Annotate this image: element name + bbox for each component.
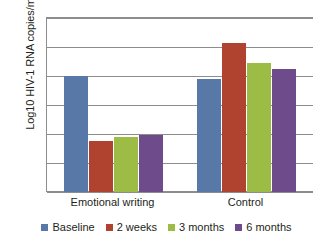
- legend-item-6-months[interactable]: 6 months: [235, 221, 291, 233]
- bar-6-months-emotional-writing: [139, 135, 163, 192]
- legend-label: Baseline: [52, 221, 94, 233]
- plot-area: 2.933.13.23.33.43.5: [46, 17, 313, 192]
- legend-label: 2 weeks: [117, 221, 157, 233]
- bar-baseline-control: [197, 79, 221, 192]
- bar-2-weeks-emotional-writing: [89, 141, 113, 192]
- legend-swatch-icon: [235, 224, 242, 231]
- legend-swatch-icon: [41, 224, 48, 231]
- legend-swatch-icon: [168, 224, 175, 231]
- bar-chart: Log10 HIV-1 RNA copies/m 2.933.13.23.33.…: [0, 0, 333, 241]
- y-axis-title: Log10 HIV-1 RNA copies/m: [24, 0, 36, 154]
- x-axis-category-label: Control: [228, 196, 263, 208]
- legend-label: 3 months: [179, 221, 224, 233]
- bar-3-months-control: [247, 63, 271, 192]
- plot-inner: 2.933.13.23.33.43.5: [47, 18, 313, 192]
- gridline: [47, 47, 313, 48]
- legend-item-3-months[interactable]: 3 months: [168, 221, 224, 233]
- legend-label: 6 months: [246, 221, 291, 233]
- bar-2-weeks-control: [222, 43, 246, 192]
- chart-legend: Baseline2 weeks3 months6 months: [0, 221, 333, 233]
- bar-6-months-control: [272, 69, 296, 192]
- x-axis-category-label: Emotional writing: [71, 196, 155, 208]
- legend-item-baseline[interactable]: Baseline: [41, 221, 94, 233]
- bar-3-months-emotional-writing: [114, 137, 138, 192]
- legend-swatch-icon: [106, 224, 113, 231]
- gridline: [47, 18, 313, 19]
- bar-baseline-emotional-writing: [64, 76, 88, 192]
- legend-item-2-weeks[interactable]: 2 weeks: [106, 221, 157, 233]
